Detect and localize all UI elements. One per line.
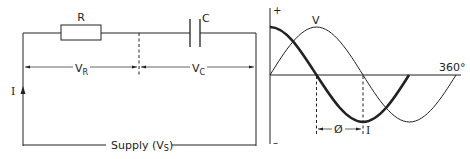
- current-label: I: [11, 85, 15, 98]
- resistor-symbol: [61, 25, 101, 40]
- current-graph-label: I: [366, 124, 370, 137]
- plus-label: +: [273, 5, 281, 16]
- vc-arrow-right-icon: [249, 66, 254, 69]
- angle-360-label: 360°: [439, 61, 466, 74]
- vc-arrow-left-icon: [141, 66, 146, 69]
- capacitor-label: C: [202, 12, 210, 25]
- phase-arrow-right-icon: [356, 128, 361, 131]
- minus-label: –: [273, 137, 278, 148]
- supply-label: Supply (VS): [111, 139, 173, 153]
- resistor-label: R: [77, 11, 85, 24]
- current-arrow-up-icon: [21, 86, 26, 94]
- measure-arrowheads: [21, 66, 255, 95]
- vr-arrow-left-icon: [25, 66, 30, 69]
- phase-angle-label: Ø: [334, 123, 343, 136]
- vr-label: VR: [75, 62, 89, 77]
- voltage-label: V: [312, 14, 320, 27]
- phase-arrow-left-icon: [318, 128, 323, 131]
- rc-circuit-diagram: R C VR VC I Supply (VS) + – V 360° Ø I: [0, 0, 470, 159]
- vc-label: VC: [192, 62, 206, 77]
- vr-arrow-right-icon: [132, 66, 137, 69]
- circuit: [23, 19, 256, 146]
